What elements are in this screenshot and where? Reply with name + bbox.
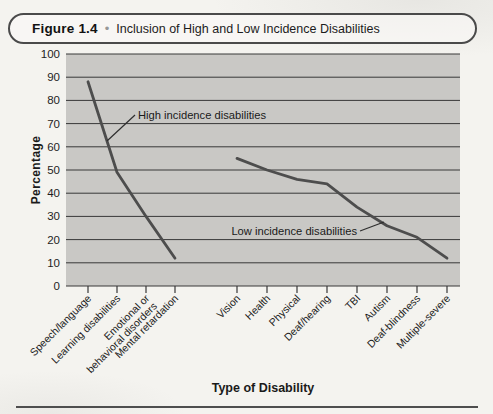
y-tick-label: 50 bbox=[47, 164, 60, 176]
bottom-divider bbox=[16, 406, 478, 408]
y-tick-label: 70 bbox=[47, 118, 60, 130]
high-incidence-annotation: High incidence disabilities bbox=[138, 109, 267, 121]
y-tick-label: 80 bbox=[47, 94, 60, 106]
y-tick-label: 30 bbox=[47, 210, 60, 222]
y-tick-label: 90 bbox=[47, 71, 60, 83]
y-tick-label: 10 bbox=[47, 257, 60, 269]
low-incidence-annotation: Low incidence disabilities bbox=[231, 225, 357, 237]
y-tick-label: 60 bbox=[47, 141, 60, 153]
x-axis-title: Type of Disability bbox=[66, 381, 460, 395]
y-tick-label: 40 bbox=[47, 187, 60, 199]
y-tick-label: 0 bbox=[54, 280, 60, 292]
y-tick-label: 100 bbox=[41, 48, 60, 60]
category-label: Multiple-severe bbox=[394, 292, 453, 351]
y-tick-label: 20 bbox=[47, 234, 60, 246]
inclusion-line-chart: 0102030405060708090100Speech/languageLea… bbox=[0, 0, 493, 414]
category-label: TBI bbox=[342, 292, 362, 312]
y-axis-title: Percentage bbox=[29, 136, 43, 205]
figure-page: Figure 1.4 • Inclusion of High and Low I… bbox=[0, 0, 493, 414]
category-label: Vision bbox=[214, 292, 243, 321]
